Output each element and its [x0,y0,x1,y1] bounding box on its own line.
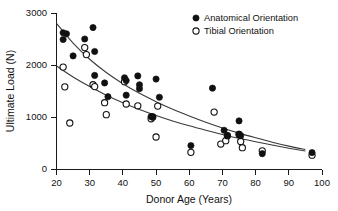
data-point-anatomical [70,53,76,59]
data-point-anatomical [136,86,142,92]
y-tick-label: 3000 [26,7,47,18]
data-point-tibial [60,64,66,70]
x-tick-label: 60 [184,177,195,188]
data-point-anatomical [224,133,230,139]
legend: Anatomical OrientationTibial Orientation [193,13,298,36]
data-point-anatomical [90,24,96,30]
data-point-anatomical [105,94,111,100]
x-tick-label: 90 [284,177,295,188]
data-point-anatomical [60,36,66,42]
data-point-tibial [188,149,194,155]
data-point-anatomical [236,118,242,124]
y-tick-label: 1000 [26,111,47,122]
x-tick-label: 30 [84,177,95,188]
y-tick-label: 2000 [26,59,47,70]
data-point-tibial [123,101,129,107]
data-point-tibial [238,138,244,144]
chart-figure: 0100020003000 2030405060708090100 Anatom… [0,0,338,211]
data-point-anatomical [63,31,69,37]
data-point-anatomical [92,72,98,78]
fit-curve [57,66,306,151]
scatter-plot: 0100020003000 2030405060708090100 Anatom… [0,0,338,211]
x-tick-label: 100 [314,177,330,188]
data-point-tibial [153,134,159,140]
data-point-anatomical [309,150,315,156]
data-point-tibial [103,112,109,118]
data-point-anatomical [150,114,156,120]
data-point-anatomical [82,36,88,42]
data-point-tibial [82,44,88,50]
data-point-anatomical [153,76,159,82]
data-point-anatomical [92,48,98,54]
data-point-anatomical [135,73,141,79]
x-tick-label: 50 [151,177,162,188]
data-point-tibial [239,145,245,151]
data-point-anatomical [259,151,265,157]
data-point-tibial [92,83,98,89]
data-point-tibial [102,100,108,106]
x-tick-label: 80 [250,177,261,188]
y-axis-ticks: 0100020003000 [26,7,57,174]
x-tick-label: 20 [51,177,62,188]
data-point-anatomical [221,127,227,133]
data-point-anatomical [123,78,129,84]
x-tick-label: 40 [118,177,129,188]
data-point-anatomical [102,80,108,86]
legend-marker-filled-circle-icon [193,15,199,21]
data-point-anatomical [156,94,162,100]
data-point-anatomical [123,92,129,98]
x-axis-ticks: 2030405060708090100 [51,170,330,189]
data-point-tibial [62,84,68,90]
data-point-anatomical [238,133,244,139]
data-point-tibial [83,52,89,58]
y-axis-title: Ultimate Load (N) [4,50,16,132]
x-axis-title: Donor Age (Years) [146,193,232,205]
legend-label: Anatomical Orientation [204,13,298,23]
data-point-tibial [211,109,217,115]
data-point-tibial [67,120,73,126]
data-point-anatomical [188,143,194,149]
data-point-tibial [135,103,141,109]
data-point-anatomical [209,85,215,91]
x-tick-label: 70 [217,177,228,188]
y-tick-label: 0 [42,163,47,174]
legend-marker-open-circle-icon [193,28,199,34]
data-point-tibial [155,103,161,109]
legend-label: Tibial Orientation [204,26,274,36]
